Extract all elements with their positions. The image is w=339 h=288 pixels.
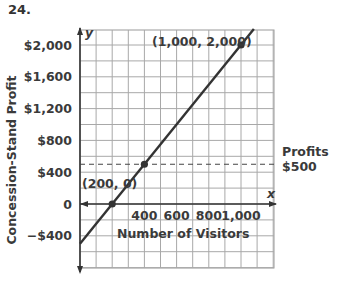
reference-label-2: $500 <box>282 159 317 174</box>
y-axis-title: Concession-Stand Profit <box>4 75 19 244</box>
data-point <box>109 200 116 207</box>
x-axis-title: Number of Visitors <box>117 226 249 241</box>
x-tick-label: 400 <box>131 208 157 223</box>
y-axis-letter: y <box>85 25 94 40</box>
point-label-1000-2000: (1,000, 2,000) <box>152 34 252 49</box>
y-tick-label: $1,200 <box>24 101 73 116</box>
point-label-200-0: (200, 0) <box>82 176 137 191</box>
y-tick-label: $800 <box>37 133 72 148</box>
x-tick-label: 800 <box>196 208 222 223</box>
data-point <box>141 161 148 168</box>
x-axis-letter: x <box>266 186 276 201</box>
x-tick-label: 1,000 <box>221 208 261 223</box>
reference-label-1: Profits <box>282 144 329 159</box>
y-tick-label: $2,000 <box>24 38 73 53</box>
x-tick-label: 600 <box>164 208 190 223</box>
profit-chart: yx $2,000$1,600$1,200$800$4000−$40040060… <box>0 0 339 288</box>
y-tick-label: $1,600 <box>24 69 73 84</box>
y-tick-label: 0 <box>63 197 72 212</box>
y-tick-label: $400 <box>37 165 72 180</box>
y-tick-label: −$400 <box>27 228 73 243</box>
